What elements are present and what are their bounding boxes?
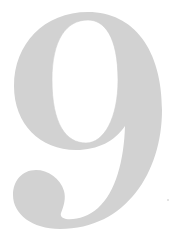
numeral-nine-glyph [0, 0, 176, 237]
canvas: 9 [0, 0, 176, 237]
